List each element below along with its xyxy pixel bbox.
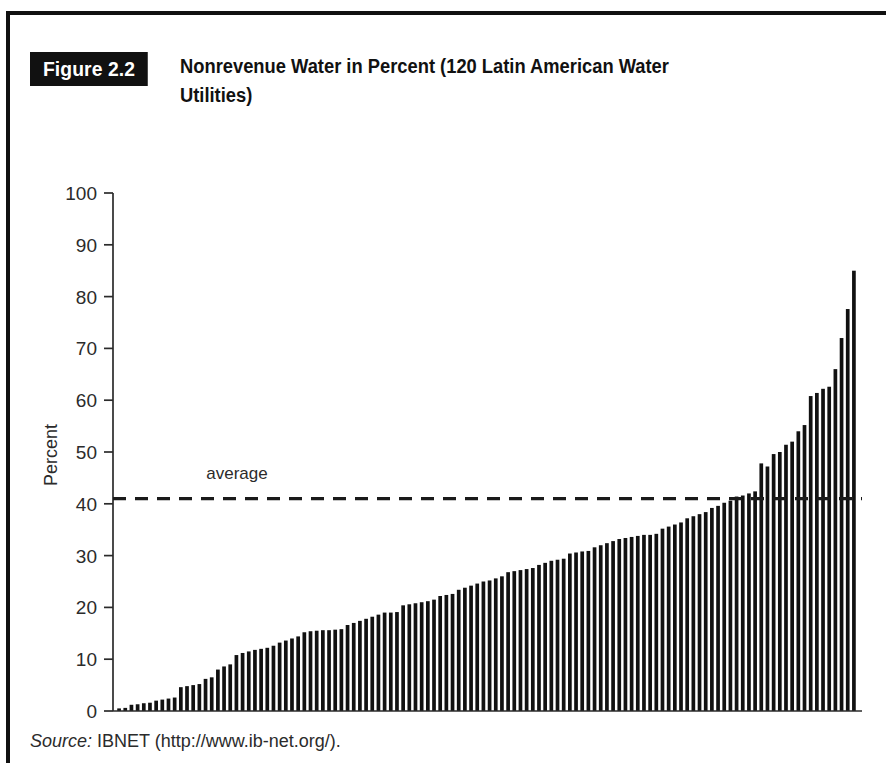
bar bbox=[562, 559, 566, 711]
bar bbox=[506, 572, 510, 711]
bar bbox=[753, 491, 757, 711]
bar bbox=[648, 535, 652, 711]
bar bbox=[414, 603, 418, 711]
bar bbox=[445, 595, 449, 711]
bar bbox=[432, 600, 436, 711]
bar bbox=[154, 701, 158, 711]
figure-title: Nonrevenue Water in Percent (120 Latin A… bbox=[180, 52, 744, 111]
bar-series bbox=[113, 271, 862, 711]
bar bbox=[617, 539, 621, 711]
bar bbox=[488, 580, 492, 711]
source-line: Source: IBNET (http://www.ib-net.org/). bbox=[30, 731, 341, 752]
bar bbox=[364, 619, 368, 711]
bar bbox=[500, 576, 504, 711]
bar bbox=[556, 560, 560, 711]
bar bbox=[420, 602, 424, 711]
bar bbox=[840, 338, 844, 711]
bar bbox=[463, 588, 467, 711]
bar bbox=[253, 650, 257, 711]
bar bbox=[327, 630, 331, 711]
bar bbox=[191, 685, 195, 711]
average-annotation: average bbox=[113, 464, 862, 499]
bar bbox=[605, 543, 609, 711]
bar bbox=[722, 503, 726, 711]
page-rule-left bbox=[6, 11, 10, 763]
y-tick-label: 40 bbox=[76, 494, 97, 515]
bar bbox=[803, 425, 807, 711]
bar bbox=[796, 431, 800, 711]
bar bbox=[438, 596, 442, 711]
bar bbox=[377, 615, 381, 711]
bar bbox=[451, 594, 455, 711]
bar bbox=[729, 501, 733, 711]
bar bbox=[401, 605, 405, 711]
bar bbox=[735, 497, 739, 711]
bar bbox=[667, 527, 671, 711]
y-tick-label: 70 bbox=[76, 338, 97, 359]
bar bbox=[852, 271, 856, 711]
bar bbox=[290, 638, 294, 711]
bar bbox=[494, 578, 498, 711]
bar bbox=[821, 389, 825, 711]
bar bbox=[148, 703, 152, 711]
bar bbox=[537, 565, 541, 711]
bar bbox=[525, 569, 529, 711]
bar bbox=[346, 625, 350, 711]
bar bbox=[204, 679, 208, 711]
y-tick-label: 60 bbox=[76, 390, 97, 411]
bar bbox=[167, 699, 171, 711]
bar bbox=[846, 309, 850, 711]
bar bbox=[247, 651, 251, 711]
bar bbox=[160, 700, 164, 711]
y-tick-label: 30 bbox=[76, 546, 97, 567]
bar bbox=[716, 506, 720, 711]
bar bbox=[519, 570, 523, 711]
bar bbox=[642, 535, 646, 711]
bar bbox=[352, 623, 356, 711]
bar bbox=[383, 613, 387, 711]
bar bbox=[827, 387, 831, 711]
y-tick-label: 80 bbox=[76, 287, 97, 308]
bar bbox=[568, 554, 572, 711]
bar bbox=[815, 393, 819, 711]
bar bbox=[130, 705, 134, 711]
bar bbox=[543, 563, 547, 711]
bar bbox=[766, 467, 770, 712]
y-tick-label: 10 bbox=[76, 649, 97, 670]
bar bbox=[778, 452, 782, 711]
bar bbox=[185, 686, 189, 711]
y-tick-label: 90 bbox=[76, 235, 97, 256]
bar bbox=[834, 369, 838, 711]
bar bbox=[173, 698, 177, 711]
bar bbox=[611, 541, 615, 711]
bar bbox=[284, 641, 288, 711]
bar bbox=[531, 568, 535, 711]
source-label: Source: bbox=[30, 731, 92, 751]
bar bbox=[661, 529, 665, 711]
bar bbox=[587, 551, 591, 711]
bar bbox=[179, 687, 183, 711]
bar bbox=[340, 629, 344, 711]
bar bbox=[407, 604, 411, 711]
figure-header: Figure 2.2 Nonrevenue Water in Percent (… bbox=[30, 52, 870, 111]
source-text: IBNET (http://www.ib-net.org/). bbox=[97, 731, 341, 751]
bar bbox=[772, 454, 776, 711]
bar bbox=[389, 613, 393, 711]
bar bbox=[574, 552, 578, 711]
bar bbox=[636, 536, 640, 711]
bar bbox=[358, 621, 362, 711]
y-tick-label: 100 bbox=[65, 183, 97, 204]
bar bbox=[679, 522, 683, 711]
bar bbox=[673, 525, 677, 711]
page-rule-top bbox=[6, 11, 886, 15]
bar bbox=[278, 643, 282, 711]
bar bbox=[599, 545, 603, 711]
bar bbox=[704, 512, 708, 711]
bar bbox=[123, 708, 127, 711]
y-tick-label: 20 bbox=[76, 597, 97, 618]
chart-canvas: 0102030405060708090100 average Percent bbox=[0, 0, 891, 763]
bar bbox=[370, 617, 374, 711]
bar bbox=[222, 666, 226, 711]
bar bbox=[790, 442, 794, 711]
y-tick-label: 50 bbox=[76, 442, 97, 463]
